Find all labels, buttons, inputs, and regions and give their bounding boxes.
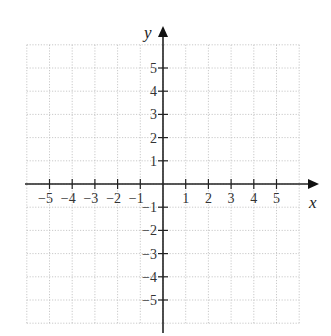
y-axis-arrow-icon <box>158 26 168 37</box>
y-tick-label: −1 <box>142 200 157 215</box>
y-tick-label: 5 <box>150 61 157 76</box>
x-axis-label: x <box>308 193 317 212</box>
x-axis-arrow-icon <box>308 179 319 189</box>
y-axis-label: y <box>142 23 152 42</box>
y-tick-label: 2 <box>150 131 157 146</box>
x-tick-label: −5 <box>38 191 53 206</box>
x-tick-label: 5 <box>273 191 280 206</box>
x-tick-label: −3 <box>83 191 98 206</box>
y-tick-label: 4 <box>150 84 157 99</box>
axes <box>25 26 319 333</box>
x-tick-label: −2 <box>106 191 121 206</box>
y-tick-label: −4 <box>142 270 157 285</box>
y-tick-label: −2 <box>142 223 157 238</box>
coordinate-plane: −5−4−3−2−112345−5−4−3−2−112345 x y <box>0 0 331 336</box>
x-tick-label: 3 <box>228 191 235 206</box>
x-tick-label: 2 <box>205 191 212 206</box>
y-tick-label: −5 <box>142 293 157 308</box>
x-tick-label: −4 <box>61 191 76 206</box>
y-tick-label: 1 <box>150 154 157 169</box>
y-tick-label: −3 <box>142 247 157 262</box>
x-tick-label: 1 <box>182 191 189 206</box>
x-tick-label: 4 <box>250 191 257 206</box>
y-tick-label: 3 <box>150 107 157 122</box>
